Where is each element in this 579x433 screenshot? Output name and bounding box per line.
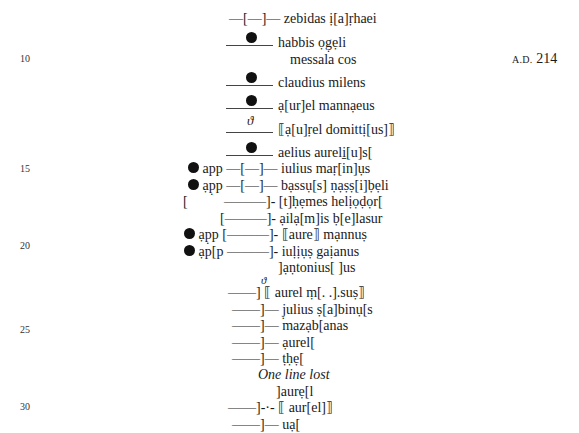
text-line: ⟦ạ[u]ṛel domittị[us]⟧ [278,122,395,138]
signature-marker: ——]— [232,335,279,350]
app-mark: ạp[p [199,244,224,259]
line-number-20: 20 [20,240,30,251]
line-text: ]aurẹ[l [276,384,313,399]
signature-dot-icon [184,228,195,239]
text-line: claudius milens [278,75,366,91]
signature-dot-icon [184,245,195,256]
date-year: 214 [536,51,557,66]
line-text: iulius maṛ[in]ụs [281,161,370,176]
date-era: A.D. [512,54,533,65]
line-number-25: 25 [20,324,30,335]
signature-rule [226,108,273,109]
signature-marker: —[—]— [229,11,280,26]
date-label: A.D. 214 [512,51,557,67]
text-line: ——]— uạ[ [232,417,300,433]
text-line: ạp̣p —[—]— bạssụ[s] ṇạṣṣ[i]ḅẹli [188,178,389,194]
line-text: bạssụ[s] ṇạṣṣ[i]ḅẹli [281,178,389,193]
theta-mark-icon: ϑ [247,113,253,129]
text-line: ——]— ṭḥẹ[ [232,351,304,367]
line-text: ạurel[ [282,335,315,350]
signature-marker: [———]- [222,227,278,242]
signature-marker: [———]- [220,211,276,226]
line-text: j̣ulius ṣ[a]binụ[s [282,302,373,317]
signature-marker: ——]-·- [228,400,275,415]
text-line: ———]- [t]ḥẹmes helịọḍọr[ [224,194,383,210]
app-mark: ạp̣p [203,178,223,193]
text-line: ]ạṇtonius[ ]us [278,260,355,276]
signature-dot-icon [246,32,257,43]
line-text: uạ[ [282,417,300,432]
line-text: ⟦ aurel ṃ[. .].suṣ⟧ [264,285,365,300]
text-line: ——]— ạurel[ [232,335,315,351]
app-mark: ạp̣p [199,227,219,242]
text-line: app —[—]— iulius maṛ[in]ụs [188,161,370,177]
text-line: ạp̣p [———]- ⟦aure⟧ mạnnuṣ [184,227,367,243]
line-number-30: 30 [20,401,30,412]
text-line: messala cos [290,52,356,68]
line-number-15: 15 [20,163,30,174]
line-number-10: 10 [20,53,30,64]
text-line: ——] ⟦ aurel ṃ[. .].suṣ⟧ [228,285,365,301]
line-text: messala cos [290,52,356,67]
signature-dot-icon [246,142,257,153]
line-text: ]ạṇtonius[ ]us [278,260,355,275]
signature-marker: ——] [228,285,261,300]
signature-marker: ——]— [232,318,279,333]
signature-dot-icon [246,72,257,83]
line-text: ⟦aure⟧ mạnnuṣ [282,227,367,242]
signature-rule [226,45,273,46]
signature-dot-icon [188,179,199,190]
text-line: ]aurẹ[l [276,384,313,400]
line-text: aelius aureli̱[u]s[ [278,145,372,160]
signature-rule [226,155,273,156]
text-line: [———]- ạilạ[m]is ḅ[e]lasur [220,211,383,227]
line-text: ⟦ aur[el]⟧ [278,400,333,415]
text-line: aelius aureli̱[u]s[ [278,145,372,161]
signature-marker: ——]— [232,417,279,432]
app-mark: app [203,161,223,176]
lost-line-note: One line lost [258,367,330,383]
line-text: iuḷịụṣ gaịanus [282,244,359,259]
line-text: [t]ḥẹmes helịọḍọr[ [279,194,383,209]
signature-marker: ———]- [227,244,278,259]
text-line: ——]— mazạb[anas [232,318,348,334]
signature-dot-icon [246,95,257,106]
signature-dot-icon [188,162,199,173]
signature-marker: ———]- [224,194,275,209]
line-text: zebidas ị[a]ṛhaei [284,11,377,26]
text-line: ạ[ur]el mannạeus [278,98,375,114]
line-text: ạ[ur]el mannạeus [278,98,375,113]
bracket-mark: [ [183,194,188,209]
signature-marker: —[—]— [226,178,277,193]
line-text: ṭḥẹ[ [282,351,304,366]
text-line: ——]— j̣ulius ṣ[a]binụ[s [232,302,373,318]
text-line: —[—]— zebidas ị[a]ṛhaei [229,11,377,27]
line-text: ạilạ[m]is ḅ[e]lasur [280,211,383,226]
signature-rule [226,132,273,133]
line-text: habbis ọg̣ẹli [278,35,346,50]
text-line: [ [183,194,188,210]
text-line: ạp[p ———]- iuḷịụṣ gaịanus [184,244,359,260]
signature-marker: ——]— [232,302,279,317]
signature-marker: ——]— [232,351,279,366]
signature-marker: —[—]— [226,161,277,176]
text-line: habbis ọg̣ẹli [278,35,346,51]
line-text: mazạb[anas [282,318,348,333]
text-line: ——]-·- ⟦ aur[el]⟧ [228,400,333,416]
signature-rule [226,85,273,86]
line-text: ⟦ạ[u]ṛel domittị[us]⟧ [278,122,395,137]
line-text: claudius milens [278,75,366,90]
